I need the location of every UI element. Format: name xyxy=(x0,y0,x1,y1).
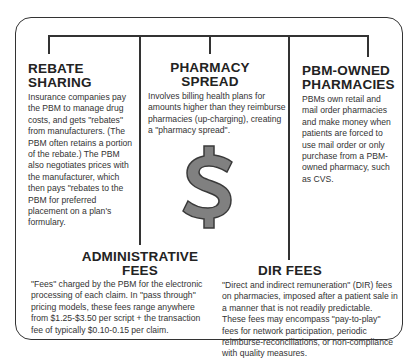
administrative-fees-title: ADMINISTRATIVE FEES xyxy=(75,250,205,278)
pbm-owned-title-line1: PBM-OWNED xyxy=(302,64,395,78)
pbm-owned-title: PBM-OWNED PHARMACIES xyxy=(302,64,395,92)
administrative-fees-body: "Fees" charged by the PBM for the electr… xyxy=(31,279,209,336)
pharmacy-spread-title: PHARMACY SPREAD xyxy=(150,61,270,89)
connector-dir-fees xyxy=(288,35,290,260)
pharmacy-spread-title-line2: SPREAD xyxy=(150,75,270,89)
rebate-sharing-title: REBATE SHARING xyxy=(28,62,92,90)
rebate-sharing-title-line2: SHARING xyxy=(28,76,92,90)
dir-fees-title: DIR FEES xyxy=(250,264,330,278)
pharmacy-spread-body: Involves billing health plans for amount… xyxy=(148,91,286,137)
administrative-fees-title-line1: ADMINISTRATIVE xyxy=(75,250,205,264)
rebate-sharing-body: Insurance companies pay the PBM to manag… xyxy=(28,92,136,229)
administrative-fees-title-line2: FEES xyxy=(75,264,205,278)
rebate-sharing-title-line1: REBATE xyxy=(28,62,92,76)
connector-rebate xyxy=(48,35,50,54)
pbm-owned-title-line2: PHARMACIES xyxy=(302,78,395,92)
pharmacy-spread-title-line1: PHARMACY xyxy=(150,61,270,75)
connector-pbm-owned xyxy=(367,35,369,57)
connector-pharmacy-spread xyxy=(209,35,211,54)
connector-administrative-fees xyxy=(139,35,141,245)
pbm-owned-body: PBMs own retail and mail order pharmacie… xyxy=(302,94,394,185)
dollar-sign-icon xyxy=(180,142,240,232)
dir-fees-body: "Direct and indirect remuneration" (DIR)… xyxy=(222,280,398,360)
